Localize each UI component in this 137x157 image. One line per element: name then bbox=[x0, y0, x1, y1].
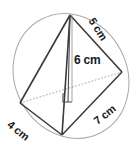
height-label-6cm: 6 cm bbox=[74, 54, 101, 66]
geometry-figure: 5 cm 6 cm 4 cm 7 cm bbox=[0, 0, 137, 157]
